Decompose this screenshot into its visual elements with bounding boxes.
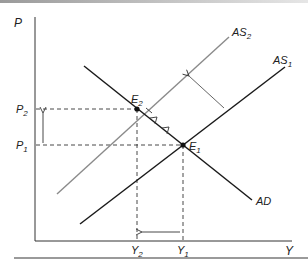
p1-label: P1 (16, 139, 28, 154)
e1-point (180, 142, 185, 147)
e1-label: E1 (189, 140, 201, 155)
ad-curve (84, 66, 252, 200)
p2-label: P2 (16, 103, 28, 118)
supply-shift-arrow-icon (189, 76, 224, 108)
as2-curve (57, 37, 229, 194)
as-ad-diagram: P Y AS2 AS1 AD E2 E1 P2 P1 Y2 Y1 (0, 0, 308, 273)
as2-label: AS2 (231, 26, 252, 41)
as1-label: AS1 (272, 54, 292, 69)
y-axis-label: P (14, 16, 22, 30)
ad-label: AD (255, 195, 271, 207)
x-axis-label: Y (285, 244, 294, 258)
bottom-rule (14, 257, 308, 259)
